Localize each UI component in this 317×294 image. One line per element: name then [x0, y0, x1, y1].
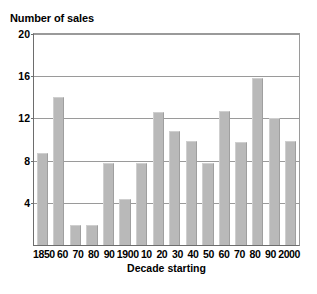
y-axis-tick-label: 4: [24, 197, 30, 209]
bar: [119, 199, 130, 245]
bar: [219, 111, 230, 245]
x-axis-tick-label: 80: [247, 248, 263, 260]
bar: [53, 97, 64, 245]
y-axis-tick-label: 16: [18, 70, 30, 82]
bar: [252, 78, 263, 245]
x-axis-tick-label: 30: [170, 248, 186, 260]
bar: [70, 225, 81, 245]
bar-slot: [183, 34, 200, 245]
x-axis-tick-label: 90: [101, 248, 117, 260]
bar-slot: [100, 34, 117, 245]
bar: [186, 141, 197, 245]
x-axis-tick-label: 10: [139, 248, 155, 260]
bar: [153, 112, 164, 245]
x-axis-tick-label: 2000: [278, 248, 300, 260]
x-axis-tick-label: 60: [216, 248, 232, 260]
bar: [37, 153, 48, 245]
y-axis-tick-label: 12: [18, 112, 30, 124]
bar-slot: [51, 34, 68, 245]
y-axis-title: Number of sales: [10, 12, 94, 24]
bar: [86, 225, 97, 245]
bar-slot: [133, 34, 150, 245]
x-axis-tick-label: 1850: [33, 248, 55, 260]
x-axis-tick-label: 40: [185, 248, 201, 260]
x-axis-tick-label: 50: [201, 248, 217, 260]
x-axis-tick-label: 1900: [117, 248, 139, 260]
bar-slot: [200, 34, 217, 245]
bar-chart: Number of sales 48121620 185060708090190…: [0, 0, 317, 294]
bar: [269, 118, 280, 245]
plot-area: 48121620: [33, 33, 300, 246]
bar-slot: [216, 34, 233, 245]
bar-slot: [84, 34, 101, 245]
bar: [136, 163, 147, 245]
bar-slot: [249, 34, 266, 245]
bar-slot: [150, 34, 167, 245]
bar: [169, 131, 180, 245]
bar-slot: [167, 34, 184, 245]
x-axis-tick-label: 60: [55, 248, 71, 260]
x-axis-title: Decade starting: [33, 262, 300, 274]
x-axis-tick-label: 70: [70, 248, 86, 260]
x-axis-tick-label: 20: [154, 248, 170, 260]
x-axis-tick-labels: 18506070809019001020304050607080902000: [33, 248, 300, 260]
bar: [202, 163, 213, 245]
x-axis-tick-label: 90: [263, 248, 279, 260]
bar-slot: [67, 34, 84, 245]
bar: [285, 141, 296, 245]
bar-slot: [233, 34, 250, 245]
bar: [235, 142, 246, 245]
bar-series: [34, 34, 299, 245]
y-axis-tick-label: 20: [18, 28, 30, 40]
bar-slot: [282, 34, 299, 245]
bar-slot: [117, 34, 134, 245]
bar-slot: [34, 34, 51, 245]
bar: [103, 163, 114, 245]
x-axis-tick-label: 80: [86, 248, 102, 260]
bar-slot: [266, 34, 283, 245]
y-axis-tick-label: 8: [24, 155, 30, 167]
x-axis-tick-label: 70: [232, 248, 248, 260]
